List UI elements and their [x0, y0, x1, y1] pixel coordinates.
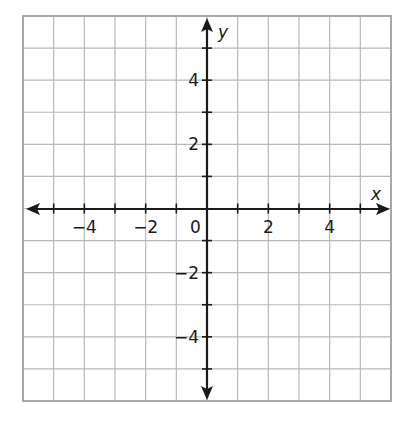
- x-tick-label: 4: [324, 217, 335, 237]
- y-axis-label: y: [217, 22, 229, 42]
- x-tick-label: 2: [263, 217, 274, 237]
- x-tick-label: −4: [72, 217, 97, 237]
- y-tick-label: −4: [174, 327, 199, 347]
- y-tick-label: −2: [174, 263, 199, 283]
- coordinate-plane: −4−22442−2−4 x y 0: [0, 0, 411, 426]
- y-tick-label: 4: [188, 70, 199, 90]
- y-tick-label: 2: [188, 134, 199, 154]
- origin-label: 0: [190, 217, 201, 237]
- x-axis-label: x: [370, 184, 382, 204]
- x-tick-label: −2: [133, 217, 158, 237]
